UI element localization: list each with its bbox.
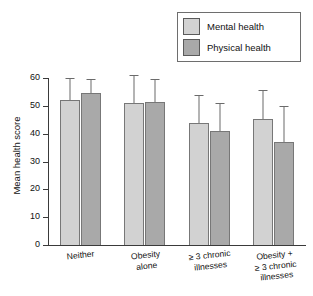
- y-tick-label-60: 60: [30, 73, 40, 82]
- y-tick-60: [43, 78, 48, 79]
- legend-label-mental-health: Mental health: [207, 22, 264, 32]
- legend-label-physical-health: Physical health: [207, 43, 271, 53]
- bar-physical-1: [145, 102, 165, 245]
- legend-item-mental-health: Mental health: [183, 17, 295, 36]
- error-bar-cap: [215, 103, 224, 104]
- error-bar-stem: [69, 78, 70, 100]
- error-bar-physical-1: [145, 79, 165, 103]
- legend-swatch-physical-health: [183, 39, 200, 56]
- error-bar-stem: [134, 75, 135, 103]
- y-tick-label-10: 10: [30, 212, 40, 221]
- bar-mental-0: [60, 100, 80, 245]
- y-tick-label-30: 30: [30, 157, 40, 166]
- error-bar-mental-3: [253, 90, 273, 119]
- error-bar-cap: [65, 78, 74, 79]
- error-bar-cap: [151, 79, 160, 80]
- y-tick-40: [43, 134, 48, 135]
- chart-legend: Mental health Physical health: [177, 12, 301, 62]
- bar-mental-2: [189, 123, 209, 245]
- bar-physical-2: [210, 131, 230, 245]
- legend-swatch-mental-health: [183, 18, 200, 35]
- y-tick-label-50: 50: [30, 101, 40, 110]
- error-bar-physical-2: [210, 103, 230, 131]
- error-bar-mental-2: [189, 95, 209, 123]
- error-bar-physical-3: [274, 106, 294, 142]
- y-tick-label-40: 40: [30, 129, 40, 138]
- error-bar-stem: [263, 90, 264, 119]
- y-tick-20: [43, 189, 48, 190]
- error-bar-cap: [280, 106, 289, 107]
- error-bar-cap: [130, 75, 139, 76]
- y-tick-10: [43, 217, 48, 218]
- error-bar-cap: [86, 79, 95, 80]
- error-bar-mental-1: [124, 75, 144, 103]
- legend-item-physical-health: Physical health: [183, 38, 295, 57]
- y-tick-30: [43, 162, 48, 163]
- y-axis-title: Mean health score: [11, 101, 22, 211]
- error-bar-mental-0: [60, 78, 80, 100]
- y-tick-label-0: 0: [35, 240, 40, 249]
- bar-chart: Mental health Physical health Mean healt…: [0, 0, 313, 296]
- error-bar-cap: [194, 95, 203, 96]
- error-bar-stem: [198, 95, 199, 123]
- error-bar-physical-0: [81, 79, 101, 93]
- bar-physical-3: [274, 142, 294, 245]
- y-tick-0: [43, 245, 48, 246]
- bar-physical-0: [81, 93, 101, 245]
- error-bar-stem: [284, 106, 285, 142]
- y-tick-label-20: 20: [30, 184, 40, 193]
- error-bar-stem: [90, 79, 91, 93]
- error-bar-cap: [259, 90, 268, 91]
- bar-mental-1: [124, 103, 144, 245]
- bar-mental-3: [253, 119, 273, 245]
- error-bar-stem: [155, 79, 156, 103]
- error-bar-stem: [219, 103, 220, 131]
- y-axis-line: [48, 78, 49, 246]
- y-tick-50: [43, 106, 48, 107]
